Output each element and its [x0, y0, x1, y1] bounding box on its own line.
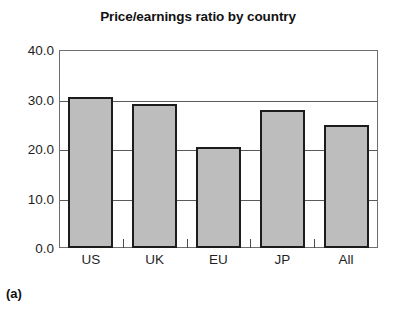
y-axis-tick-labels: 0.010.020.030.040.0 [0, 50, 54, 248]
bar-slot [324, 50, 369, 248]
x-tick-label-jp: JP [274, 252, 290, 267]
bar-us[interactable] [68, 97, 113, 248]
bar-slot [196, 50, 241, 248]
bar-slot [68, 50, 113, 248]
bar-jp[interactable] [260, 110, 305, 248]
figure-caption: (a) [6, 286, 22, 301]
chart-title: Price/earnings ratio by country [0, 9, 396, 24]
bar-uk[interactable] [132, 104, 177, 248]
bar-slot [260, 50, 305, 248]
bar-all[interactable] [324, 125, 369, 248]
y-tick-label: 0.0 [2, 241, 54, 256]
y-tick-label: 20.0 [2, 142, 54, 157]
x-axis-tick-labels: USUKEUJPAll [59, 252, 378, 274]
x-tick-label-us: US [82, 252, 101, 267]
bar-slot [132, 50, 177, 248]
x-minor-tick [123, 239, 124, 248]
x-minor-tick [187, 239, 188, 248]
bar-series [59, 50, 378, 248]
x-minor-tick [250, 239, 251, 248]
x-tick-label-all: All [339, 252, 354, 267]
x-tick-label-eu: EU [209, 252, 228, 267]
x-tick-label-uk: UK [145, 252, 164, 267]
bar-eu[interactable] [196, 147, 241, 248]
y-tick-label: 30.0 [2, 92, 54, 107]
figure-panel: Price/earnings ratio by country 0.010.02… [0, 0, 396, 315]
y-tick-label: 40.0 [2, 43, 54, 58]
x-minor-tick [314, 239, 315, 248]
y-tick-label: 10.0 [2, 191, 54, 206]
